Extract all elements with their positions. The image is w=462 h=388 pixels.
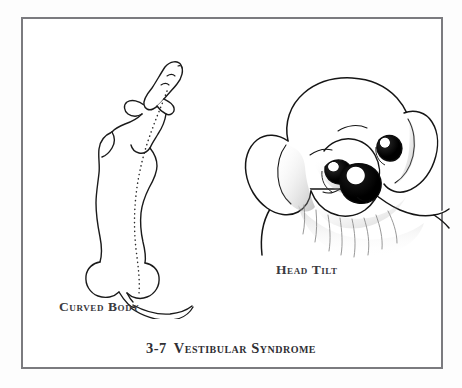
dog-nose xyxy=(340,164,381,204)
dog-right-shoulder-crease xyxy=(131,145,150,153)
label-head-tilt: Head Tilt xyxy=(276,262,338,278)
figure-caption-title: Vestibular Syndrome xyxy=(174,340,316,356)
dog-shoulder-tip xyxy=(434,215,449,228)
dog-tail-upper xyxy=(133,305,192,314)
dog-left-haunch xyxy=(86,262,119,297)
dog-right-flank xyxy=(141,148,157,263)
figure-caption: 3-7Vestibular Syndrome xyxy=(0,340,462,357)
head-tilt-illustration xyxy=(218,55,453,280)
label-curved-body: Curved Body xyxy=(59,299,139,315)
spine-curvature-dotted-line xyxy=(135,91,168,293)
dog-right-eye xyxy=(377,136,402,162)
dog-brow-crease-left xyxy=(310,149,332,155)
dog-right-haunch xyxy=(127,263,159,298)
dog-neck-right xyxy=(150,114,166,148)
curved-body-illustration xyxy=(69,49,209,319)
figure-frame-border xyxy=(21,17,443,369)
dog-left-ear xyxy=(124,101,144,117)
figure-caption-number: 3-7 xyxy=(146,340,167,356)
dog-skull-outline xyxy=(287,78,412,141)
figure-plate: Curved Body Head Tilt 3-7Vestibular Synd… xyxy=(0,0,462,388)
